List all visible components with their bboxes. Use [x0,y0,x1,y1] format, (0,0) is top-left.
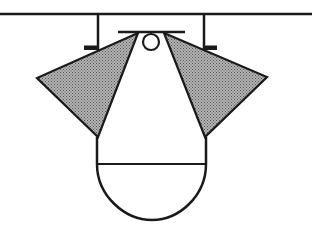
pivot-circle [143,34,159,50]
left-bracket [84,46,99,51]
right-bracket [203,46,217,51]
body-shape [97,137,206,220]
diagram-canvas [0,0,322,231]
diagram-svg [0,0,322,231]
